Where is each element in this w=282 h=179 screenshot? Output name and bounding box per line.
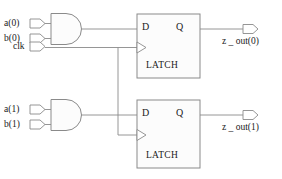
input-pin-marker-b1 xyxy=(30,120,45,129)
circuit-diagram: a(0) b(0) clk a(1) b(1) D Q LATCH D Q LA… xyxy=(0,0,282,179)
output-pin-marker-z_out1 xyxy=(243,111,258,120)
latch-1-d-label: D xyxy=(142,108,149,118)
latch-1-q-label: Q xyxy=(176,108,183,118)
latch-1-title: LATCH xyxy=(146,151,178,161)
input-pin-marker-a1 xyxy=(30,105,45,114)
output-label-z_out0: z _ out(0) xyxy=(222,37,259,47)
and-gate-1-body xyxy=(51,99,82,130)
input-label-a1: a(1) xyxy=(4,105,19,115)
input-label-b1: b(1) xyxy=(4,120,20,130)
circuit-schematic-canvas xyxy=(0,0,282,179)
and-gate-0-body xyxy=(51,14,81,45)
latch-0-q-label: Q xyxy=(176,22,183,32)
latch-0-d-label: D xyxy=(142,22,149,32)
input-pin-marker-clk xyxy=(30,42,45,51)
input-pin-marker-a0 xyxy=(30,19,45,28)
latch-0-title: LATCH xyxy=(146,61,178,71)
output-pin-marker-z_out0 xyxy=(243,25,258,34)
output-label-z_out1: z _ out(1) xyxy=(222,123,259,133)
input-label-clk: clk xyxy=(13,42,25,52)
input-label-a0: a(0) xyxy=(4,19,19,29)
